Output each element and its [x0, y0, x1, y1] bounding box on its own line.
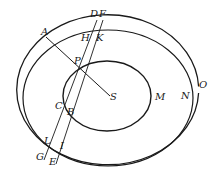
inner-orbit — [63, 61, 151, 131]
label-L: L — [43, 135, 51, 146]
label-D: D — [89, 8, 98, 19]
label-C: C — [55, 100, 63, 111]
label-S: S — [110, 91, 117, 102]
orbit-diagram: A D F H K P S M N O C B L I G E — [0, 0, 221, 184]
label-E: E — [48, 156, 57, 167]
label-K: K — [95, 32, 104, 43]
label-G: G — [36, 151, 44, 162]
label-P: P — [73, 55, 81, 66]
line-A-S — [46, 37, 110, 96]
label-I: I — [59, 140, 65, 151]
label-N: N — [180, 90, 191, 101]
label-F: F — [98, 8, 107, 19]
label-M: M — [154, 91, 166, 102]
label-H: H — [80, 32, 90, 43]
label-A: A — [40, 26, 48, 37]
label-O: O — [199, 79, 207, 90]
label-B: B — [66, 106, 74, 117]
